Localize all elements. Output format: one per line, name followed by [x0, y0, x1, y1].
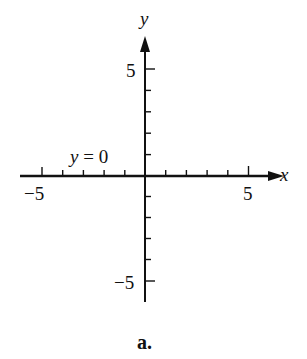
- figure-caption: a.: [137, 331, 152, 353]
- y-axis-label: y: [138, 8, 149, 29]
- y-tick-label-max: 5: [126, 60, 136, 81]
- y-tick-label-min: −5: [114, 272, 134, 293]
- x-tick-label-max: 5: [243, 183, 253, 204]
- graph: x y −5 5 5 −5 y = 0 a.: [0, 0, 307, 359]
- x-axis-label: x: [279, 164, 289, 185]
- x-axis: [20, 166, 284, 181]
- line-label: y = 0: [68, 146, 108, 167]
- y-axis: [140, 36, 155, 302]
- y-axis-arrow-icon: [140, 36, 150, 52]
- x-tick-label-min: −5: [24, 183, 44, 204]
